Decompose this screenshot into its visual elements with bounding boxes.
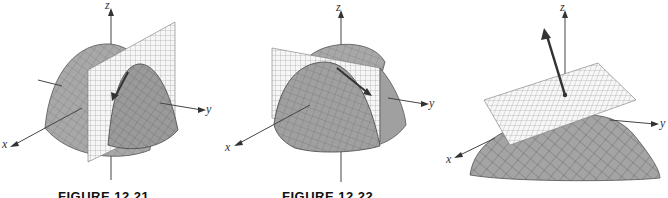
z-axis-label-b: z bbox=[336, 0, 341, 15]
y-axis-label-c: y bbox=[660, 116, 665, 131]
surface-plot-b bbox=[220, 0, 440, 198]
y-axis-label-b: y bbox=[429, 96, 434, 111]
figure-caption-a: FIGURE 12.21 bbox=[58, 189, 149, 198]
figure-caption-b: FIGURE 12.22 bbox=[282, 189, 373, 198]
figure-panel-a: z y x FIGURE 12.21 bbox=[0, 0, 230, 198]
figure-panel-b: z y x FIGURE 12.22 bbox=[220, 0, 440, 198]
x-axis-label-c: x bbox=[446, 152, 451, 167]
z-axis-label-c: z bbox=[560, 0, 565, 15]
y-axis-label-a: y bbox=[206, 102, 211, 117]
z-axis-label-a: z bbox=[105, 0, 110, 13]
x-axis-label-b: x bbox=[225, 140, 230, 155]
figure-panel-c: z y x bbox=[440, 0, 668, 198]
x-axis-label-a: x bbox=[2, 137, 7, 152]
surface-plot-c bbox=[440, 0, 668, 198]
surface-plot-a bbox=[0, 0, 230, 198]
